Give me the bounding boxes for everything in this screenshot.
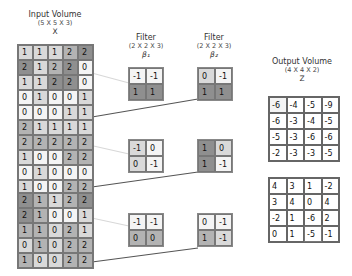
filter2-cell: 0 <box>198 214 215 230</box>
output-cell: -3 <box>287 145 305 161</box>
filter2-cell: 1 <box>198 230 215 246</box>
input-cell: 2 <box>78 253 93 268</box>
filter2-cell: -1 <box>215 230 232 246</box>
output-cell: -3 <box>304 145 322 161</box>
output-cell: -5 <box>269 129 287 145</box>
filter2-cell: -1 <box>215 214 232 230</box>
filter1-cell: -1 <box>129 214 146 230</box>
input-cell: 2 <box>18 60 33 75</box>
filter2-cell: -1 <box>215 156 232 172</box>
input-cell: 1 <box>33 45 48 60</box>
input-cell: 0 <box>18 238 33 253</box>
output-cell: -4 <box>304 113 322 129</box>
input-cell: 2 <box>18 208 33 223</box>
input-cell: 1 <box>33 208 48 223</box>
input-cell: 0 <box>63 90 78 105</box>
input-cell: 2 <box>48 60 63 75</box>
input-cell: 1 <box>33 165 48 180</box>
output-cell: 1 <box>287 210 305 226</box>
input-cell: 0 <box>18 90 33 105</box>
input-cell: 0 <box>63 208 78 223</box>
input-cell: 1 <box>78 90 93 105</box>
output-cell: -5 <box>304 226 322 242</box>
filter1-cell: 0 <box>146 230 163 246</box>
filter1-slice-1: -1-111 <box>128 67 164 101</box>
filter1-cell: -1 <box>146 156 163 172</box>
output-cell: -2 <box>269 145 287 161</box>
input-cell: 1 <box>18 45 33 60</box>
output-cell: -6 <box>304 129 322 145</box>
filter2-slice-2: 101-1 <box>197 139 233 173</box>
input-cell: 0 <box>78 60 93 75</box>
input-slice-1: 1112221220112200100100011 <box>17 44 94 121</box>
filter1-cell: -1 <box>146 68 163 84</box>
input-cell: 2 <box>63 238 78 253</box>
output-cell: -3 <box>287 129 305 145</box>
filter1-cell: 1 <box>146 84 163 100</box>
output-cell: 1 <box>304 178 322 194</box>
input-cell: 0 <box>48 165 63 180</box>
output-cell: -3 <box>287 113 305 129</box>
input-cell: 1 <box>48 193 63 208</box>
filter2-cell: 1 <box>198 156 215 172</box>
input-cell: 2 <box>18 135 33 150</box>
input-cell: 2 <box>78 238 93 253</box>
filter1-cell: 0 <box>129 156 146 172</box>
output-cell: -6 <box>304 210 322 226</box>
output-cell: -9 <box>322 97 340 113</box>
input-cell: 2 <box>78 135 93 150</box>
input-cell: 2 <box>78 150 93 165</box>
input-cell: 1 <box>63 105 78 120</box>
output-cell: 0 <box>269 226 287 242</box>
input-cell: 1 <box>78 105 93 120</box>
filter2-cell: 0 <box>198 68 215 84</box>
input-cell: 0 <box>48 90 63 105</box>
input-cell: 1 <box>78 120 93 135</box>
input-slice-2: 2111122222100220100010022 <box>17 119 94 196</box>
input-cell: 1 <box>33 60 48 75</box>
filter2-slice-1: 0-111 <box>197 67 233 101</box>
input-cell: 0 <box>48 223 63 238</box>
output-cell: -5 <box>304 97 322 113</box>
input-cell: 1 <box>48 45 63 60</box>
input-cell: 1 <box>78 208 93 223</box>
output-cell: 4 <box>269 178 287 194</box>
input-cell: 1 <box>33 90 48 105</box>
output-cell: -5 <box>322 145 340 161</box>
input-cell: 1 <box>18 253 33 268</box>
input-cell: 0 <box>18 165 33 180</box>
input-cell: 0 <box>48 105 63 120</box>
filter2-cell: 1 <box>198 140 215 156</box>
input-cell: 2 <box>63 193 78 208</box>
input-cell: 0 <box>63 165 78 180</box>
filter1-cell: 1 <box>129 84 146 100</box>
input-cell: 1 <box>18 150 33 165</box>
filter2-cell: -1 <box>215 68 232 84</box>
input-cell: 0 <box>33 253 48 268</box>
output-cell: -6 <box>269 97 287 113</box>
input-cell: 0 <box>33 105 48 120</box>
input-cell: 2 <box>63 253 78 268</box>
output-cell: 2 <box>322 210 340 226</box>
input-cell: 0 <box>18 105 33 120</box>
filter2-slice-3: 0-11-1 <box>197 213 233 247</box>
input-cell: 0 <box>48 150 63 165</box>
filter2-cell: 1 <box>198 84 215 100</box>
input-cell: 2 <box>63 223 78 238</box>
output-cell: -6 <box>269 113 287 129</box>
input-cell: 2 <box>63 150 78 165</box>
filter2-cell: 0 <box>215 140 232 156</box>
input-cell: 1 <box>33 223 48 238</box>
input-cell: 0 <box>78 75 93 90</box>
input-cell: 2 <box>18 120 33 135</box>
output-cell: -4 <box>287 97 305 113</box>
input-cell: 2 <box>48 75 63 90</box>
input-cell: 2 <box>18 193 33 208</box>
output-cell: -6 <box>322 129 340 145</box>
input-cell: 1 <box>48 120 63 135</box>
input-cell: 1 <box>78 223 93 238</box>
input-cell: 1 <box>33 75 48 90</box>
input-cell: 2 <box>63 45 78 60</box>
input-cell: 2 <box>63 135 78 150</box>
input-cell: 0 <box>78 165 93 180</box>
